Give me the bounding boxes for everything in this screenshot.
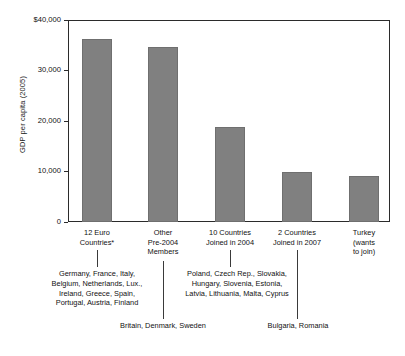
x-category-label-line3: Members: [108, 247, 218, 257]
bar-12-euro-countries: [82, 39, 112, 222]
x-category-label-line3: to join): [309, 247, 405, 257]
y-axis-title: GDP per capita (2005): [18, 45, 27, 185]
plot-right-border: [389, 20, 390, 222]
annotation-other-pre-2004-countries: Britain, Denmark, Sweden: [105, 321, 221, 331]
y-tick-label: 30,000: [38, 65, 61, 74]
x-category-label-line2: (wants: [309, 238, 405, 248]
gdp-per-capita-bar-chart: GDP per capita (2005) $40,000 30,000 20,…: [0, 0, 405, 356]
x-category-label-turkey: Turkey (wants to join): [309, 228, 405, 257]
y-tick-label: 20,000: [38, 116, 61, 125]
plot-top-border: [68, 20, 390, 21]
bar-10-countries-joined-2004: [215, 127, 245, 222]
bar-2-countries-joined-2007: [282, 172, 312, 222]
bar-turkey: [349, 176, 379, 222]
y-tick-label: 0: [57, 217, 61, 226]
annotation-joined-2007-countries: Bulgaria, Romania: [252, 321, 344, 331]
leader-line-joined-2004: [230, 250, 231, 267]
y-tick-label: 10,000: [38, 166, 61, 175]
y-tick-label: $40,000: [34, 15, 61, 24]
annotation-joined-2004-countries: Poland, Czech Rep., Slovakia, Hungary, S…: [167, 269, 307, 298]
bar-other-pre-2004-members: [148, 47, 178, 222]
leader-line-euro12: [97, 250, 98, 267]
x-category-label-line1: Turkey: [309, 228, 405, 238]
annotation-euro12-countries: Germany, France, Italy, Belgium, Netherl…: [22, 269, 172, 308]
